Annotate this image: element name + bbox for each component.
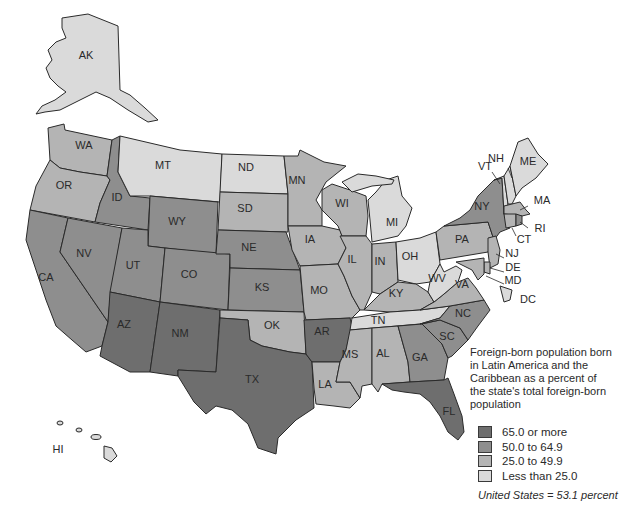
label-GA: GA (412, 351, 429, 363)
label-WA: WA (75, 139, 93, 151)
state-AZ (100, 292, 160, 372)
legend-label: Less than 25.0 (502, 470, 577, 482)
legend-title-line: Foreign-born population born (470, 346, 624, 359)
legend-swatch (478, 426, 492, 438)
label-MN: MN (288, 174, 305, 186)
state-NM (150, 302, 220, 376)
label-IL: IL (347, 253, 356, 265)
state-AK (36, 14, 158, 122)
label-CO: CO (181, 268, 198, 280)
label-HI: HI (53, 443, 64, 455)
state-SD (218, 192, 288, 232)
label-OR: OR (56, 179, 73, 191)
label-IA: IA (305, 233, 316, 245)
state-DC (500, 286, 512, 302)
label-NH: NH (488, 152, 504, 164)
label-AL: AL (376, 347, 389, 359)
state-CT (504, 214, 516, 228)
label-CA: CA (38, 271, 54, 283)
label-LA: LA (318, 378, 332, 390)
legend-title-line: the state's total foreign-born (470, 385, 624, 398)
label-CT: CT (517, 233, 532, 245)
label-VA: VA (455, 278, 470, 290)
label-ND: ND (238, 161, 254, 173)
label-TX: TX (245, 373, 260, 385)
state-DE (484, 262, 490, 274)
label-MS: MS (342, 348, 359, 360)
label-UT: UT (126, 259, 141, 271)
label-OK: OK (264, 319, 281, 331)
legend-swatch (478, 441, 492, 453)
legend-title-line: Caribbean as a percent of (470, 372, 624, 385)
label-PA: PA (455, 233, 470, 245)
label-MO: MO (310, 284, 328, 296)
label-DE: DE (505, 261, 520, 273)
label-AR: AR (314, 325, 329, 337)
label-AK: AK (79, 49, 94, 61)
label-KS: KS (255, 281, 270, 293)
legend-label: 25.0 to 49.9 (502, 455, 563, 467)
state-RI (516, 214, 522, 226)
label-SC: SC (439, 330, 454, 342)
label-NV: NV (76, 247, 92, 259)
label-WV: WV (428, 272, 446, 284)
legend-item: Less than 25.0 (470, 469, 624, 484)
label-NM: NM (171, 327, 188, 339)
label-WI: WI (335, 197, 348, 209)
legend-swatch (478, 455, 492, 467)
legend-label: 65.0 or more (502, 426, 567, 438)
label-ME: ME (520, 155, 537, 167)
map-legend: Foreign-born population born in Latin Am… (470, 346, 624, 501)
label-TN: TN (371, 314, 386, 326)
legend-item: 65.0 or more (470, 425, 624, 440)
label-MT: MT (155, 159, 171, 171)
label-DC: DC (520, 293, 536, 305)
label-FL: FL (443, 405, 456, 417)
label-SD: SD (237, 202, 252, 214)
legend-swatch (478, 470, 492, 482)
label-RI: RI (535, 222, 546, 234)
legend-title: Foreign-born population born in Latin Am… (470, 346, 624, 411)
label-NJ: NJ (505, 247, 518, 259)
legend-title-line: in Latin America and the (470, 359, 624, 372)
label-WY: WY (168, 215, 186, 227)
legend-item: 50.0 to 64.9 (470, 440, 624, 455)
label-NY: NY (474, 200, 490, 212)
label-AZ: AZ (117, 318, 131, 330)
label-MI: MI (386, 216, 398, 228)
label-KY: KY (389, 287, 404, 299)
label-OH: OH (402, 250, 419, 262)
legend-item: 25.0 to 49.9 (470, 454, 624, 469)
label-NC: NC (455, 307, 471, 319)
national-average-note: United States = 53.1 percent (478, 489, 624, 501)
label-IN: IN (375, 255, 386, 267)
label-MD: MD (504, 274, 521, 286)
state-ND (220, 154, 288, 194)
label-MA: MA (534, 194, 551, 206)
state-HI (57, 421, 117, 462)
state-IA (288, 226, 346, 266)
legend-label: 50.0 to 64.9 (502, 441, 563, 453)
state-ME (510, 138, 548, 196)
label-ID: ID (112, 191, 123, 203)
label-NE: NE (241, 241, 256, 253)
legend-title-line: population (470, 398, 624, 411)
